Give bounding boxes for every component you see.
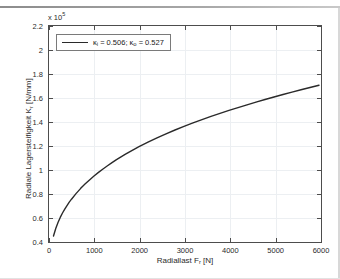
y-axis-tick-label: 2	[39, 46, 43, 55]
y-axis-tick-label: 1	[39, 166, 43, 175]
y-axis-tick	[49, 146, 53, 147]
x-axis-tick	[230, 238, 231, 242]
x-axis-tick-top	[49, 26, 50, 30]
y-axis-title-unit: [N/mm]	[24, 78, 33, 106]
x-axis-tick-label: 3000	[177, 246, 194, 255]
x-axis-tick-label: 6000	[313, 246, 330, 255]
x-axis-tick-top	[94, 26, 95, 30]
x-axis-tick	[185, 238, 186, 242]
y-axis-tick-right	[317, 50, 321, 51]
legend-line-swatch	[62, 42, 88, 43]
legend-entry-label: κi = 0.506; κo = 0.527	[93, 38, 164, 47]
y-axis-tick-right	[317, 74, 321, 75]
y-axis-tick-label: 1.6	[33, 94, 43, 103]
y-axis-tick	[49, 170, 53, 171]
y-axis-tick-label: 1.2	[33, 142, 43, 151]
x-axis-tick	[49, 238, 50, 242]
y-axis-tick	[49, 218, 53, 219]
y-axis-tick	[49, 50, 53, 51]
y-axis-tick	[49, 122, 53, 123]
page-top-rule	[0, 6, 340, 8]
y-axis-tick	[49, 74, 53, 75]
x-axis-tick-top	[230, 26, 231, 30]
legend-eq-2: =	[137, 38, 146, 47]
y-axis-tick-right	[317, 146, 321, 147]
x-axis-tick	[321, 238, 322, 242]
y-axis-exponent-label: x 105	[48, 11, 65, 22]
x-axis-tick-top	[140, 26, 141, 30]
x-axis-title-main: Radiallast F	[157, 256, 199, 265]
x-axis-title: Radiallast Fr [N]	[48, 256, 322, 265]
x-axis-tick-label: 0	[47, 246, 51, 255]
y-axis-title-main: Radiale Lagersteifigkeit K	[24, 108, 33, 199]
y-axis-tick	[49, 194, 53, 195]
legend-eq-1: =	[98, 38, 107, 47]
figure-canvas: x 105 κi = 0.506; κo = 0.527 0.40.60.811…	[0, 0, 340, 279]
series-line-kappa	[53, 85, 319, 236]
x-axis-title-unit: [N]	[201, 256, 213, 265]
x-axis-tick-label: 1000	[86, 246, 103, 255]
x-axis-tick-label: 5000	[267, 246, 284, 255]
x-axis-tick	[276, 238, 277, 242]
y-axis-tick-label: 0.6	[33, 214, 43, 223]
y-axis-tick-right	[317, 194, 321, 195]
y-axis-tick-label: 0.8	[33, 190, 43, 199]
plot-area: κi = 0.506; κo = 0.527 0.40.60.811.21.41…	[48, 25, 322, 243]
y-axis-tick-label: 1.4	[33, 118, 43, 127]
y-axis-tick	[49, 98, 53, 99]
y-axis-tick-right	[317, 170, 321, 171]
y-axis-tick-right	[317, 122, 321, 123]
y-axis-tick-label: 0.4	[33, 238, 43, 247]
legend-kappa-i-value: 0.506	[107, 38, 126, 47]
y-axis-tick-right	[317, 98, 321, 99]
exponent-prefix: x 10	[48, 13, 62, 22]
y-axis-tick	[49, 242, 53, 243]
x-axis-tick-top	[276, 26, 277, 30]
data-curve-layer	[49, 26, 321, 242]
x-axis-tick-label: 2000	[131, 246, 148, 255]
chart-legend: κi = 0.506; κo = 0.527	[56, 34, 171, 51]
y-axis-tick-label: 2.2	[33, 22, 43, 31]
y-axis-title: Radiale Lagersteifigkeit Kr [N/mm]	[24, 30, 33, 248]
x-axis-tick-label: 4000	[222, 246, 239, 255]
y-axis-tick-right	[317, 218, 321, 219]
x-axis-tick-top	[185, 26, 186, 30]
x-axis-tick-top	[321, 26, 322, 30]
y-axis-tick-label: 1.8	[33, 70, 43, 79]
x-axis-tick	[140, 238, 141, 242]
legend-kappa-o-value: 0.527	[145, 38, 164, 47]
y-axis-tick-right	[317, 242, 321, 243]
x-axis-tick	[94, 238, 95, 242]
exponent-value: 5	[62, 11, 65, 17]
